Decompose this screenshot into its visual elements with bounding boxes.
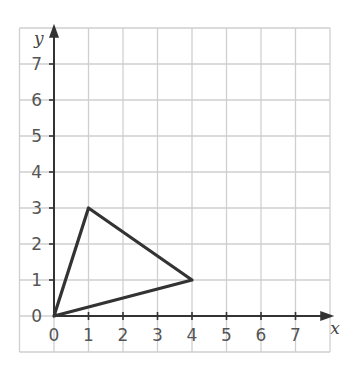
y-tick-label: 6 [31,90,42,110]
y-tick-label: 5 [31,126,42,146]
x-tick-label: 5 [221,325,232,345]
y-tick-label: 0 [31,306,42,326]
x-tick-label: 0 [49,325,60,345]
x-tick-label: 4 [187,325,198,345]
coordinate-diagram: 0123456701234567 x y [0,0,354,376]
y-tick-label: 1 [31,270,42,290]
x-tick-label: 7 [290,325,301,345]
x-tick-label: 2 [118,325,129,345]
y-tick-label: 2 [31,234,42,254]
x-tick-label: 3 [152,325,163,345]
y-tick-label: 4 [31,162,42,182]
y-axis-label: y [33,28,44,48]
grid [20,28,331,352]
x-axis-label: x [330,318,340,338]
x-tick-label: 6 [256,325,267,345]
y-tick-label: 3 [31,198,42,218]
y-tick-label: 7 [31,54,42,74]
x-tick-label: 1 [83,325,94,345]
